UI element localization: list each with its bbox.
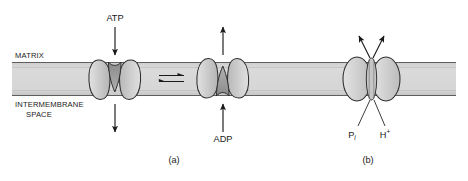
atp-label: ATP bbox=[106, 13, 123, 23]
phosphate-proton-exit-arrows bbox=[359, 36, 384, 58]
panel-a-caption: (a) bbox=[168, 155, 179, 165]
translocase-a2-left-lobe bbox=[197, 58, 218, 98]
intermembrane-space-label-line2: SPACE bbox=[26, 110, 52, 119]
proton-label: H+ bbox=[380, 128, 391, 140]
adp-label: ADP bbox=[214, 134, 233, 144]
translocase-a1-right-lobe bbox=[120, 60, 141, 100]
matrix-label: MATRIX bbox=[15, 51, 44, 60]
phosphate-translocase-channel bbox=[366, 58, 376, 100]
translocase-a2-right-lobe bbox=[228, 58, 249, 98]
phosphate-translocase bbox=[343, 57, 400, 101]
phosphate-proton-leader-lines bbox=[358, 100, 385, 126]
mitochondrial-transporter-diagram: MATRIX INTERMEMBRANE SPACE ATP bbox=[0, 0, 468, 181]
intermembrane-space-label-line1: INTERMEMBRANE bbox=[15, 100, 84, 109]
translocase-a1-left-lobe bbox=[89, 60, 110, 100]
phosphate-label: Pi bbox=[348, 130, 356, 141]
diagram-canvas: MATRIX INTERMEMBRANE SPACE ATP bbox=[0, 0, 468, 181]
panel-b-caption: (b) bbox=[362, 155, 373, 165]
